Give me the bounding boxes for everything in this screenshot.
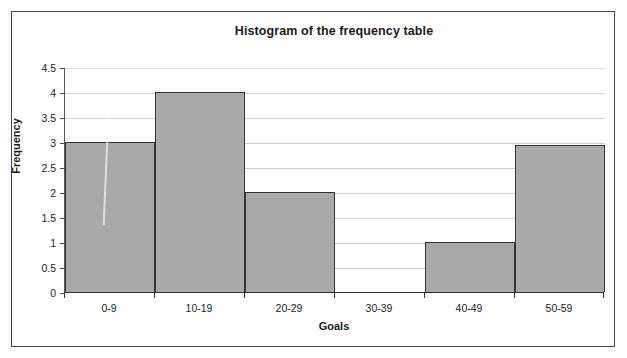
- bar-slot: [65, 67, 155, 292]
- x-axis-label: 0-9: [64, 302, 154, 314]
- bar-slot: [425, 67, 515, 292]
- bar-slot: [155, 67, 245, 292]
- bar: [245, 192, 335, 292]
- x-axis-tick: [514, 293, 515, 298]
- plot-area: 00.511.522.533.544.5: [64, 68, 604, 293]
- x-axis-title: Goals: [64, 320, 604, 332]
- y-axis-label: 1.5: [41, 212, 56, 224]
- x-axis-tick: [154, 293, 155, 298]
- y-axis-title-container: Frequency: [0, 0, 40, 358]
- x-axis-label: 40-49: [424, 302, 514, 314]
- bar: [425, 242, 515, 292]
- x-axis-tick: [424, 293, 425, 298]
- y-axis-label: 0.5: [41, 262, 56, 274]
- x-axis-label: 30-39: [334, 302, 424, 314]
- y-axis-label: 0: [50, 287, 56, 299]
- x-axis-label: 50-59: [514, 302, 604, 314]
- bar-slot: [335, 67, 425, 292]
- x-axis-ticks: [64, 293, 604, 299]
- x-axis-label: 20-29: [244, 302, 334, 314]
- y-axis-label: 3: [50, 137, 56, 149]
- y-axis-label: 3.5: [41, 112, 56, 124]
- x-axis-label: 10-19: [154, 302, 244, 314]
- chart-title: Histogram of the frequency table: [64, 24, 604, 38]
- bar-series: [65, 67, 605, 292]
- x-axis-labels: 0-910-1920-2930-3940-4950-59: [64, 302, 604, 318]
- bar: [155, 92, 245, 292]
- bar-slot: [515, 67, 605, 292]
- x-axis-tick: [603, 293, 604, 298]
- y-axis-label: 2: [50, 187, 56, 199]
- x-axis-tick: [64, 293, 65, 298]
- x-axis-tick: [334, 293, 335, 298]
- y-axis-label: 1: [50, 237, 56, 249]
- y-axis-label: 2.5: [41, 162, 56, 174]
- bar: [515, 145, 605, 293]
- histogram-figure: Histogram of the frequency table Frequen…: [0, 0, 627, 358]
- y-axis-label: 4.5: [41, 62, 56, 74]
- y-axis-title: Frequency: [10, 118, 22, 174]
- bar: [65, 142, 155, 292]
- bar-slot: [245, 67, 335, 292]
- x-axis-tick: [244, 293, 245, 298]
- y-axis-label: 4: [50, 87, 56, 99]
